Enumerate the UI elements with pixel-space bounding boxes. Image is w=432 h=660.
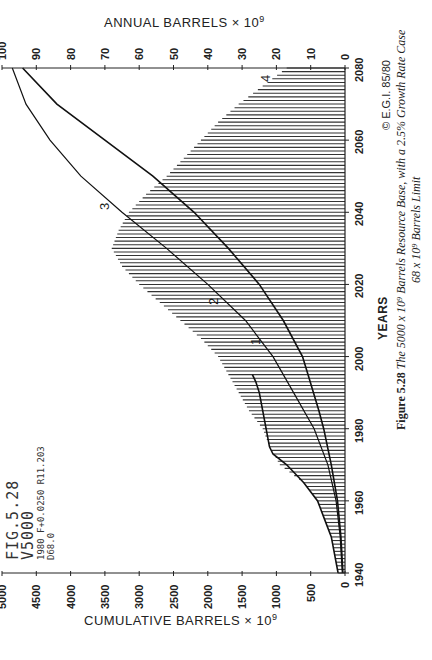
curve-label-1: 1 — [248, 338, 263, 345]
caption-text-line-1: The 5000 x 10⁹ Barrels Resource Base, wi… — [394, 30, 408, 369]
year-tick-label: 2040 — [353, 202, 365, 226]
cumulative-tick-label: 4000 — [65, 585, 77, 609]
annual-tick-label: 30 — [236, 48, 248, 60]
annual-tick-label: 0 — [339, 54, 351, 60]
chart-canvas — [0, 0, 432, 660]
year-tick-label: 2020 — [353, 274, 365, 298]
cumulative-tick-label: 0 — [339, 582, 351, 588]
annual-production-bars — [112, 68, 345, 573]
figure-code-block: FIG.5.28 V5000 1980 F+0.0250 R11.203 D68… — [6, 446, 56, 560]
figure-code-line-2: V5000 — [21, 446, 36, 560]
cumulative-tick-label: 2000 — [202, 585, 214, 609]
annual-tick-label: 70 — [99, 48, 111, 60]
cumulative-tick-label: 1500 — [236, 585, 248, 609]
cumulative-tick-label: 3000 — [133, 585, 145, 609]
annual-axis-title: ANNUAL BARRELS × 109 — [104, 14, 265, 30]
cumulative-tick-label: 3500 — [99, 585, 111, 609]
cumulative-axis-title: CUMULATIVE BARRELS × 109 — [84, 612, 277, 628]
annual-tick-label: 50 — [168, 48, 180, 60]
cumulative-tick-label: 500 — [305, 584, 317, 602]
curve-label-4: 4 — [258, 75, 273, 82]
annual-tick-label: 60 — [133, 48, 145, 60]
annual-tick-label: 40 — [202, 48, 214, 60]
annual-tick-label: 80 — [65, 48, 77, 60]
caption-text-line-2: 68 x 10⁹ Barrels Limit — [409, 30, 424, 430]
year-axis-title: YEARS — [376, 296, 390, 340]
annual-tick-label: 90 — [30, 48, 42, 60]
year-tick-label: 1940 — [353, 563, 365, 587]
year-tick-label: 2060 — [353, 130, 365, 154]
year-tick-label: 2000 — [353, 346, 365, 370]
figure-code-line-3: 1980 F+0.0250 R11.203 — [36, 446, 46, 560]
cumulative-tick-label: 5000 — [0, 585, 8, 609]
annual-tick-label: 10 — [305, 48, 317, 60]
year-tick-label: 1960 — [353, 490, 365, 514]
cumulative-tick-label: 2500 — [168, 585, 180, 609]
annual-tick-label: 20 — [270, 48, 282, 60]
figure-caption: Figure 5.28 The 5000 x 10⁹ Barrels Resou… — [394, 30, 424, 430]
annual-tick-label: 100 — [0, 42, 8, 60]
caption-figure-label: Figure 5.28 — [394, 372, 408, 430]
year-tick-label: 2080 — [353, 58, 365, 82]
figure-code-line-4: D68.0 — [46, 446, 56, 560]
copyright-note: © E.G.I. 85/80 — [380, 60, 392, 130]
cumulative-tick-label: 1000 — [270, 585, 282, 609]
curve-label-3: 3 — [97, 203, 112, 210]
year-tick-label: 1980 — [353, 418, 365, 442]
cumulative-tick-label: 4500 — [30, 585, 42, 609]
curve-label-2: 2 — [206, 298, 221, 305]
